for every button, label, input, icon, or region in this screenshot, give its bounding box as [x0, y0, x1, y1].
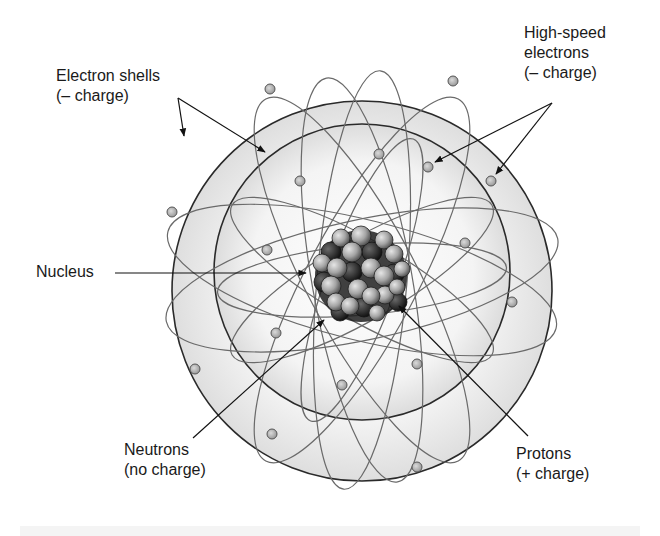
electron [423, 162, 433, 172]
label-protons-line1: Protons [516, 444, 589, 464]
label-electron-shells-line2: (– charge) [56, 86, 160, 106]
label-electron-shells: Electron shells (– charge) [56, 66, 160, 106]
footer-band [20, 526, 640, 536]
label-protons-line2: (+ charge) [516, 464, 589, 484]
electron [267, 429, 277, 439]
electron [486, 176, 496, 186]
electron [337, 380, 347, 390]
electron [412, 359, 422, 369]
label-neutrons-line2: (no charge) [124, 460, 206, 480]
electron [271, 328, 281, 338]
electron [507, 297, 517, 307]
label-neutrons: Neutrons (no charge) [124, 440, 206, 480]
label-high-speed-electrons-line3: (– charge) [524, 63, 606, 83]
electron [448, 76, 458, 86]
electron [412, 462, 422, 472]
electron [460, 238, 470, 248]
electron [295, 176, 305, 186]
label-high-speed-electrons-line2: electrons [524, 43, 606, 63]
label-nucleus-line1: Nucleus [36, 262, 94, 282]
label-nucleus: Nucleus [36, 262, 94, 282]
electron [190, 364, 200, 374]
label-high-speed-electrons-line1: High-speed [524, 23, 606, 43]
electron [374, 149, 384, 159]
electron [265, 84, 275, 94]
label-high-speed-electrons: High-speed electrons (– charge) [524, 23, 606, 83]
label-electron-shells-line1: Electron shells [56, 66, 160, 86]
electron [167, 207, 177, 217]
label-protons: Protons (+ charge) [516, 444, 589, 484]
electron [262, 245, 272, 255]
label-neutrons-line1: Neutrons [124, 440, 206, 460]
